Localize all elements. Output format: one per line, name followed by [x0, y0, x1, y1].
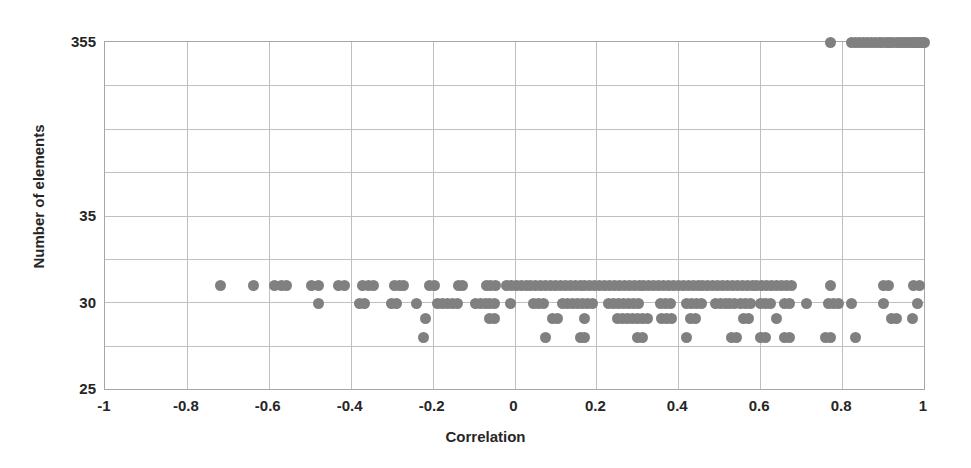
data-point: [891, 313, 902, 324]
data-point: [846, 298, 857, 309]
data-point: [429, 280, 440, 291]
plot-area: [104, 41, 925, 390]
data-point: [681, 332, 692, 343]
data-point: [398, 280, 409, 291]
x-axis-tick-label: -0.8: [146, 398, 226, 413]
data-point: [743, 313, 754, 324]
data-point: [490, 280, 501, 291]
data-point: [505, 298, 516, 309]
x-axis-tick-label: 0.2: [555, 398, 635, 413]
data-point: [912, 298, 923, 309]
data-point: [540, 332, 551, 343]
data-point: [579, 332, 590, 343]
data-point: [368, 280, 379, 291]
data-point: [359, 298, 370, 309]
data-point: [907, 313, 918, 324]
data-point: [420, 313, 431, 324]
data-point: [313, 280, 324, 291]
vertical-gridline: [596, 42, 597, 389]
data-point: [552, 313, 563, 324]
y-axis-tick-label: 25: [26, 381, 96, 396]
y-axis-tick-label: 35: [26, 208, 96, 223]
x-axis-tick-label: 0.6: [719, 398, 799, 413]
data-point: [825, 332, 836, 343]
data-point: [637, 332, 648, 343]
data-point: [784, 332, 795, 343]
data-point: [418, 332, 429, 343]
data-point: [411, 298, 422, 309]
data-point: [579, 313, 590, 324]
data-point: [666, 313, 677, 324]
data-point: [489, 313, 500, 324]
x-axis-tick-label: -1: [64, 398, 144, 413]
data-point: [833, 298, 844, 309]
data-point: [786, 280, 797, 291]
vertical-gridline: [351, 42, 352, 389]
data-point: [919, 37, 930, 48]
x-axis-tick-label: -0.6: [228, 398, 308, 413]
data-point: [281, 280, 292, 291]
vertical-gridline: [515, 42, 516, 389]
data-point: [878, 298, 889, 309]
data-point: [696, 298, 707, 309]
data-point: [665, 298, 676, 309]
data-point: [457, 280, 468, 291]
data-point: [633, 298, 644, 309]
y-axis-tick-label: 355: [26, 34, 96, 49]
scatter-chart: Number of elements 253035355 -1-0.8-0.6-…: [0, 0, 971, 468]
x-axis-tick-label: 0.4: [637, 398, 717, 413]
x-axis-tick-label: 0: [474, 398, 554, 413]
y-axis-tick-label: 30: [26, 295, 96, 310]
data-point: [825, 280, 836, 291]
data-point: [850, 332, 861, 343]
data-point: [452, 298, 463, 309]
data-point: [690, 313, 701, 324]
vertical-gridline: [269, 42, 270, 389]
vertical-gridline: [678, 42, 679, 389]
data-point: [760, 332, 771, 343]
x-axis-title: Correlation: [0, 428, 971, 445]
data-point: [883, 280, 894, 291]
x-axis-tick-label: 1: [883, 398, 963, 413]
data-point: [765, 298, 776, 309]
data-point: [642, 313, 653, 324]
data-point: [538, 298, 549, 309]
data-point: [914, 280, 925, 291]
data-point: [313, 298, 324, 309]
vertical-gridline: [842, 42, 843, 389]
data-point: [339, 280, 350, 291]
data-point: [771, 313, 782, 324]
data-point: [248, 280, 259, 291]
vertical-gridline: [433, 42, 434, 389]
data-point: [784, 298, 795, 309]
data-point: [825, 37, 836, 48]
data-point: [489, 298, 500, 309]
data-point: [587, 298, 598, 309]
data-point: [731, 332, 742, 343]
data-point: [391, 298, 402, 309]
x-axis-tick-label: 0.8: [801, 398, 881, 413]
data-point: [801, 298, 812, 309]
vertical-gridline: [187, 42, 188, 389]
x-axis-tick-label: -0.4: [310, 398, 390, 413]
data-point: [215, 280, 226, 291]
x-axis-tick-label: -0.2: [392, 398, 472, 413]
